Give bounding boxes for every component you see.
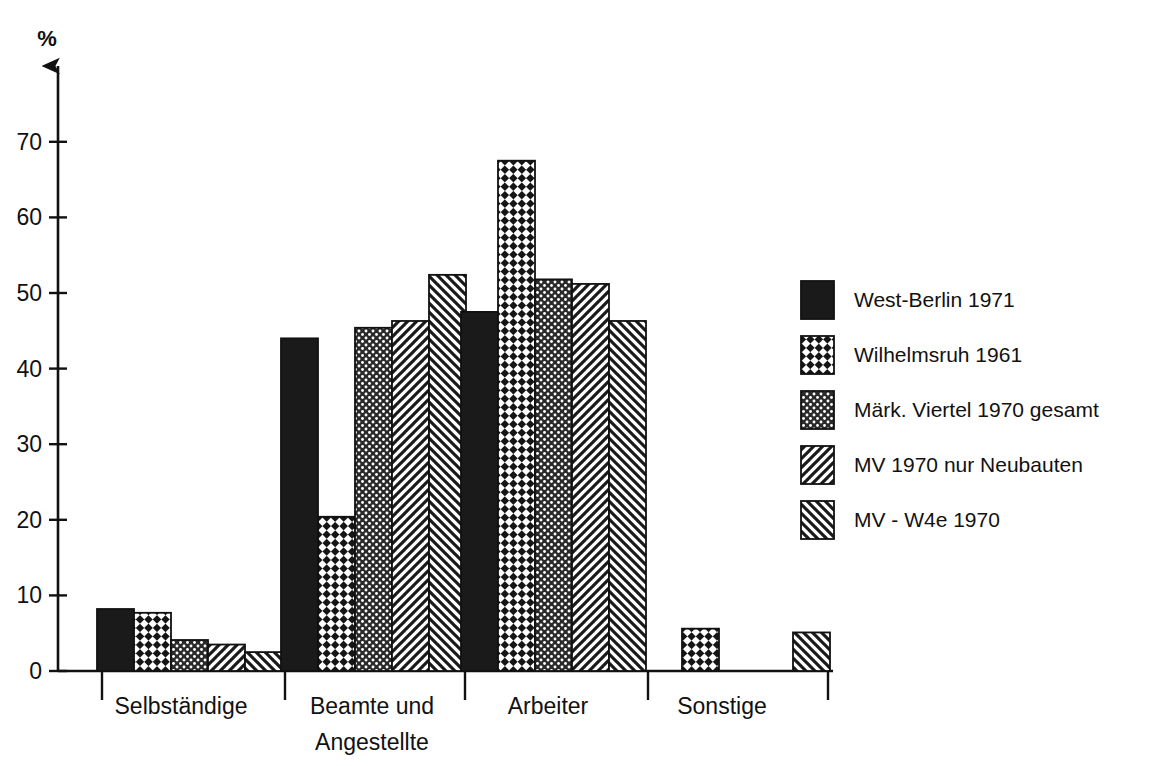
bar: [682, 629, 719, 671]
legend-label: West-Berlin 1971: [854, 288, 1015, 311]
category-label: Arbeiter: [508, 693, 589, 719]
legend-label: Wilhelmsruh 1961: [854, 343, 1022, 366]
y-tick-label: 60: [16, 204, 42, 230]
y-tick-label: 30: [16, 431, 42, 457]
bar: [134, 613, 171, 671]
bar: [498, 161, 535, 671]
bar: [609, 321, 646, 671]
y-tick-label: 20: [16, 507, 42, 533]
bar: [355, 328, 392, 671]
y-tick-label: 0: [29, 658, 42, 684]
legend-swatch: [801, 501, 834, 539]
legend-label: MV - W4e 1970: [854, 508, 1000, 531]
legend-label: MV 1970 nur Neubauten: [854, 453, 1083, 476]
category-label: Sonstige: [677, 693, 767, 719]
legend-swatch: [801, 336, 834, 374]
legend-swatch: [801, 391, 834, 429]
legend-swatch: [801, 281, 834, 319]
bar: [535, 279, 572, 671]
legend-label: Märk. Viertel 1970 gesamt: [854, 398, 1099, 421]
bar: [572, 284, 609, 671]
bar: [318, 517, 355, 671]
bar: [793, 632, 830, 671]
chart-figure: % 010203040506070 SelbständigeBeamte und…: [0, 0, 1150, 766]
bar: [97, 609, 134, 671]
bar: [281, 338, 318, 671]
chart-canvas: % 010203040506070 SelbständigeBeamte und…: [0, 0, 1150, 766]
bar: [208, 645, 245, 671]
legend-swatch: [801, 446, 834, 484]
category-label: Beamte und: [310, 693, 434, 719]
category-label: Angestellte: [315, 729, 429, 755]
category-label: Selbständige: [115, 693, 248, 719]
bar: [461, 312, 498, 671]
y-tick-label: 70: [16, 129, 42, 155]
y-axis-unit-label: %: [37, 26, 57, 51]
bar: [245, 652, 282, 671]
bar: [392, 321, 429, 671]
y-tick-label: 40: [16, 356, 42, 382]
bar: [171, 640, 208, 671]
y-tick-label: 50: [16, 280, 42, 306]
y-tick-label: 10: [16, 582, 42, 608]
